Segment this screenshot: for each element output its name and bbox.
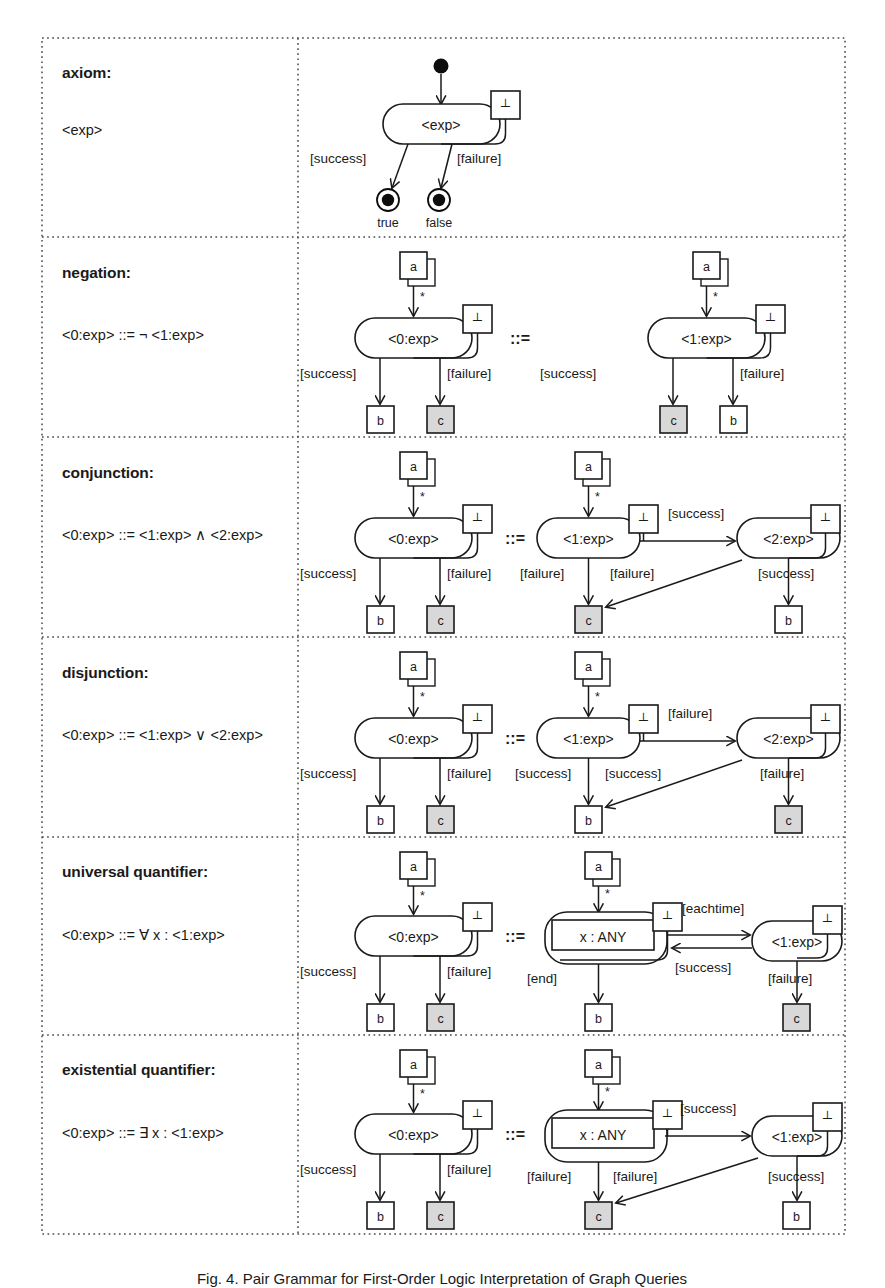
guard-disj-2exp-cross: [success] xyxy=(605,766,661,781)
multiplicity-star: * xyxy=(605,887,610,901)
equivalence-disjunction: ::= xyxy=(505,730,525,747)
target-node-c-label: c xyxy=(670,414,676,428)
guard-disj-lhs-failure: [failure] xyxy=(447,766,491,781)
guard-univ-failure: [failure] xyxy=(768,971,812,986)
target-node-b-label: b xyxy=(730,414,737,428)
row-title-existential: existential quantifier: xyxy=(62,1061,216,1078)
source-node-a-label: a xyxy=(410,260,417,274)
multiplicity-star: * xyxy=(420,1087,425,1101)
target-node-c-label: c xyxy=(785,814,791,828)
guard-univ-eachtime: [eachtime] xyxy=(682,901,744,916)
activity-2exp-label: <2:exp> xyxy=(763,531,814,547)
row-production-negation: <0:exp> ::= ¬ <1:exp> xyxy=(62,327,204,343)
stop-box-axiom-glyph: ┴ xyxy=(500,98,510,113)
row-conjunction: conjunction: <0:exp> ::= <1:exp> ∧ <2:ex… xyxy=(62,452,840,633)
figure-caption: Fig. 4. Pair Grammar for First-Order Log… xyxy=(197,1270,687,1287)
initial-state-icon xyxy=(434,59,449,74)
guard-exist-success-down: [success] xyxy=(768,1169,824,1184)
guard-exist-loop-down: [failure] xyxy=(527,1169,571,1184)
source-node-a-label: a xyxy=(595,1058,602,1072)
conjunction-lhs: a * <0:exp> ┴ [success] [failure] b c xyxy=(300,452,492,633)
multiplicity-star: * xyxy=(595,490,600,504)
multiplicity-star: * xyxy=(605,1085,610,1099)
guard-conj-lhs-failure: [failure] xyxy=(447,566,491,581)
guard-negation-rhs-success: [success] xyxy=(540,366,596,381)
multiplicity-star: * xyxy=(420,290,425,304)
multiplicity-star: * xyxy=(595,690,600,704)
universal-lhs: a * <0:exp> ┴ [success] [failure] b c xyxy=(300,852,492,1031)
conjunction-rhs: a * <1:exp> ┴ [success] <2:exp> ┴ [failu… xyxy=(520,452,840,633)
row-production-conjunction: <0:exp> ::= <1:exp> ∧ <2:exp> xyxy=(62,527,263,543)
guard-exist-lhs-success: [success] xyxy=(300,1162,356,1177)
guard-conj-1exp-down: [failure] xyxy=(520,566,564,581)
guard-conj-2exp-cross: [failure] xyxy=(610,566,654,581)
source-node-a-label: a xyxy=(595,860,602,874)
equivalence-universal: ::= xyxy=(505,928,525,945)
row-title-universal: universal quantifier: xyxy=(62,863,208,880)
target-node-b-label: b xyxy=(785,614,792,628)
activity-1exp-label: <1:exp> xyxy=(681,331,732,347)
target-node-c-label: c xyxy=(437,1012,443,1026)
row-title-disjunction: disjunction: xyxy=(62,664,149,681)
guard-conj-2exp-down: [success] xyxy=(758,566,814,581)
guard-disj-2exp-down: [failure] xyxy=(760,766,804,781)
guard-negation-lhs-failure: [failure] xyxy=(447,366,491,381)
negation-rhs: a * <1:exp> ┴ [success] [failure] c b xyxy=(540,252,785,433)
pair-grammar-diagram: axiom: <exp> <exp> ┴ [success] [failure]… xyxy=(0,0,885,1288)
activity-0exp-label: <0:exp> xyxy=(388,731,439,747)
guard-negation-lhs-success: [success] xyxy=(300,366,356,381)
universal-rhs: a * x : ANY ┴ [eachtime] [success] <1:ex… xyxy=(527,852,842,1031)
equivalence-existential: ::= xyxy=(505,1126,525,1143)
loop-node-x-any-label: x : ANY xyxy=(580,1127,627,1143)
multiplicity-star: * xyxy=(713,290,718,304)
activity-0exp-label: <0:exp> xyxy=(388,1127,439,1143)
guard-univ-end: [end] xyxy=(527,971,557,986)
stop-box-2exp-glyph: ┴ xyxy=(820,712,830,727)
disjunction-rhs: a * <1:exp> ┴ [failure] <2:exp> ┴ [succe… xyxy=(515,652,840,833)
guard-univ-lhs-failure: [failure] xyxy=(447,964,491,979)
guard-conj-lhs-success: [success] xyxy=(300,566,356,581)
final-state-true-label: true xyxy=(377,216,399,230)
guard-axiom-failure: [failure] xyxy=(457,151,501,166)
negation-lhs: a * <0:exp> ┴ [success] [failure] b c xyxy=(300,252,492,433)
guard-disj-1exp-down: [success] xyxy=(515,766,571,781)
multiplicity-star: * xyxy=(420,889,425,903)
guard-exist-cross: [failure] xyxy=(613,1169,657,1184)
stop-box-2exp-glyph: ┴ xyxy=(820,512,830,527)
source-node-a-label: a xyxy=(410,860,417,874)
target-node-b-label: b xyxy=(377,414,384,428)
target-node-c-label: c xyxy=(437,414,443,428)
row-title-negation: negation: xyxy=(62,264,131,281)
target-node-c-label: c xyxy=(437,614,443,628)
target-node-b-label: b xyxy=(377,1210,384,1224)
guard-univ-success: [success] xyxy=(675,960,731,975)
target-node-b-label: b xyxy=(377,1012,384,1026)
target-node-b-label: b xyxy=(377,614,384,628)
target-node-c-label: c xyxy=(437,1210,443,1224)
guard-conj-link: [success] xyxy=(668,506,724,521)
multiplicity-star: * xyxy=(420,490,425,504)
stop-box-univ-lhs-glyph: ┴ xyxy=(472,910,482,925)
activity-1exp-label: <1:exp> xyxy=(563,731,614,747)
source-node-a-label: a xyxy=(410,660,417,674)
row-production-existential: <0:exp> ::= ∃ x : <1:exp> xyxy=(62,1125,224,1141)
edge-exp-success xyxy=(392,144,408,188)
activity-1exp-label: <1:exp> xyxy=(563,531,614,547)
stop-box-loop-glyph: ┴ xyxy=(662,1108,672,1123)
multiplicity-star: * xyxy=(420,690,425,704)
guard-axiom-success: [success] xyxy=(310,151,366,166)
row-title-conjunction: conjunction: xyxy=(62,464,154,481)
activity-exp-label: <exp> xyxy=(422,117,461,133)
disjunction-lhs: a * <0:exp> ┴ [success] [failure] b c xyxy=(300,652,492,833)
row-title-axiom: axiom: xyxy=(62,64,111,81)
source-node-a-label: a xyxy=(585,660,592,674)
row-negation: negation: <0:exp> ::= ¬ <1:exp> a * <0:e… xyxy=(62,252,785,433)
stop-box-conj-lhs-glyph: ┴ xyxy=(472,512,482,527)
row-universal-quantifier: universal quantifier: <0:exp> ::= ∀ x : … xyxy=(62,852,842,1031)
equivalence-negation: ::= xyxy=(510,330,530,347)
row-production-disjunction: <0:exp> ::= <1:exp> ∨ <2:exp> xyxy=(62,727,263,743)
row-production-axiom: <exp> xyxy=(62,122,102,138)
activity-0exp-label: <0:exp> xyxy=(388,331,439,347)
stop-box-negation-lhs-glyph: ┴ xyxy=(472,312,482,327)
stop-box-1exp-glyph: ┴ xyxy=(638,712,648,727)
